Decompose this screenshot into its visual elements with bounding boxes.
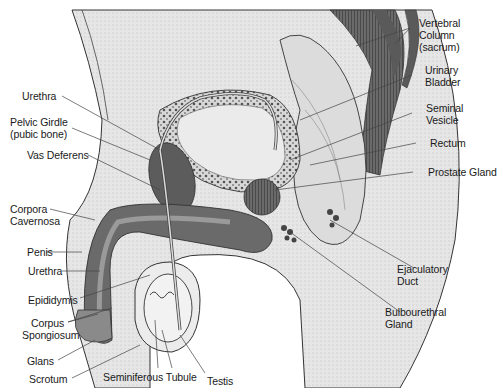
label-urinary-bladder: Urinary Bladder (425, 64, 461, 88)
label-seminal-vesicle: Seminal Vesicle (426, 102, 463, 126)
label-seminiferous-tubule: Seminiferous Tubule (103, 371, 197, 383)
label-glans: Glans (27, 355, 54, 367)
scrotum (135, 262, 200, 352)
label-corpus-spongiosum: Corpus Spongiosum (22, 317, 79, 341)
label-rectum: Rectum (430, 137, 466, 149)
label-bulbourethral-gland: Bulbourethral Gland (385, 306, 446, 330)
testis (144, 274, 192, 342)
label-epididymis: Epididymis (28, 294, 78, 306)
label-vertebral-column: Vertebral Column (sacrum) (419, 17, 460, 53)
label-testis: Testis (207, 375, 233, 387)
label-corpora-cavernosa: Corpora Cavernosa (10, 203, 60, 227)
prostate (244, 179, 280, 215)
label-pelvic-girdle: Pelvic Girdle (pubic bone) (10, 116, 68, 140)
label-vas-deferens: Vas Deferens (27, 149, 89, 161)
label-prostate-gland: Prostate Gland (428, 166, 497, 178)
label-urethra-top: Urethra (22, 90, 56, 102)
label-scrotum: Scrotum (29, 373, 67, 385)
label-urethra-bottom: Urethra (28, 265, 62, 277)
label-ejaculatory-duct: Ejaculatory Duct (397, 263, 448, 287)
label-penis: Penis (27, 246, 53, 258)
